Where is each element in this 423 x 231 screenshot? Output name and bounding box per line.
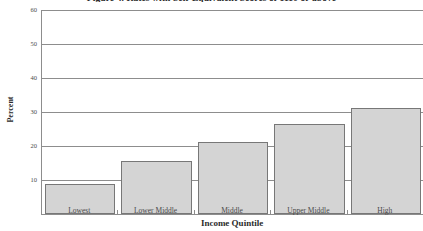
bar bbox=[198, 142, 268, 214]
x-axis-tick-labels: LowestLower MiddleMiddleUpper MiddleHigh bbox=[41, 206, 423, 218]
x-axis-tick-label: Lower Middle bbox=[117, 206, 193, 216]
y-axis-tick-label: 10 bbox=[7, 177, 37, 184]
figure-container: Figure 4. Rates with Self-Equivalent Sco… bbox=[0, 0, 423, 231]
chart-title: Figure 4. Rates with Self-Equivalent Sco… bbox=[0, 0, 423, 2]
bar bbox=[351, 108, 421, 214]
y-axis-tick-label: 60 bbox=[7, 7, 37, 14]
y-axis-tick-labels: 102030405060 bbox=[4, 10, 37, 215]
x-axis-tick-label: High bbox=[347, 206, 423, 216]
x-axis-title: Income Quintile bbox=[41, 218, 423, 228]
x-axis-tick-label: Middle bbox=[194, 206, 270, 216]
plot-area bbox=[41, 10, 423, 215]
y-axis-tick-label: 50 bbox=[7, 41, 37, 48]
x-axis-tick-label: Upper Middle bbox=[270, 206, 346, 216]
y-axis-tick-label: 40 bbox=[7, 75, 37, 82]
y-axis-tick-label: 30 bbox=[7, 109, 37, 116]
y-axis-tick-label: 20 bbox=[7, 143, 37, 150]
bar bbox=[274, 124, 344, 214]
x-axis-tick-label: Lowest bbox=[41, 206, 117, 216]
bars-layer bbox=[41, 10, 423, 215]
